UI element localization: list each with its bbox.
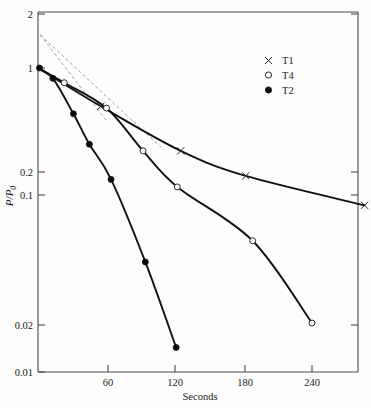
series-origin-markers xyxy=(37,65,43,71)
x-tick-label-1: 120 xyxy=(167,377,183,388)
series-line-t1 xyxy=(38,68,365,205)
figure-container: 2 1 0.2 0.1 0.02 0.01 P/P0 60 120 180 24… xyxy=(0,0,371,408)
log-decay-chart: 2 1 0.2 0.1 0.02 0.01 P/P0 60 120 180 24… xyxy=(0,0,371,408)
x-axis-title: Seconds xyxy=(183,391,218,402)
data-point-t2-4 xyxy=(108,176,114,182)
series-t4 xyxy=(38,68,315,326)
data-point-t4-2 xyxy=(104,105,110,111)
y-tick-label-1: 1 xyxy=(28,63,33,74)
y-axis-title-main: P/P xyxy=(3,189,15,207)
filled-circle-icon xyxy=(265,87,271,93)
y-tick-label-0: 2 xyxy=(28,9,33,20)
data-point-t2-5 xyxy=(142,259,148,265)
data-point-t4-1 xyxy=(61,80,67,86)
y-axis-tick-labels: 2 1 0.2 0.1 0.02 0.01 xyxy=(15,9,33,378)
open-circle-icon xyxy=(265,72,271,78)
y-tick-label-4: 0.02 xyxy=(15,320,33,331)
data-point-origin xyxy=(37,65,43,71)
x-tick-label-3: 240 xyxy=(304,377,320,388)
cross-icon xyxy=(265,57,272,64)
data-point-t4-5 xyxy=(250,238,256,244)
series-t1 xyxy=(38,68,368,209)
legend-label-t4: T4 xyxy=(282,70,294,81)
data-point-t2-3 xyxy=(86,141,92,147)
data-point-t4-3 xyxy=(140,148,146,154)
x-axis-ticks xyxy=(108,365,312,372)
legend-entry-t1: T1 xyxy=(265,55,294,66)
y-tick-label-3: 0.1 xyxy=(20,190,33,201)
legend-label-t2: T2 xyxy=(282,85,294,96)
series-layer xyxy=(37,65,369,350)
data-point-t4-4 xyxy=(174,184,180,190)
y-axis-title: P/P0 xyxy=(3,186,18,208)
legend-entry-t4: T4 xyxy=(265,70,294,81)
data-point-t4-6 xyxy=(309,320,315,326)
y-tick-label-2: 0.2 xyxy=(20,167,33,178)
data-point-t1-2 xyxy=(177,147,184,154)
chart-legend: T1 T4 T2 xyxy=(265,55,294,96)
data-point-t2-1 xyxy=(50,75,56,81)
y-tick-label-5: 0.01 xyxy=(15,367,33,378)
series-line-t4 xyxy=(38,68,312,323)
legend-label-t1: T1 xyxy=(282,55,294,66)
legend-entry-t2: T2 xyxy=(265,85,293,96)
x-tick-label-2: 180 xyxy=(237,377,253,388)
x-tick-label-0: 60 xyxy=(103,377,114,388)
x-axis-tick-labels: 60 120 180 240 xyxy=(103,377,320,388)
svg-text:P/P0: P/P0 xyxy=(3,186,18,208)
data-point-t2-2 xyxy=(70,111,76,117)
data-point-t2-6 xyxy=(173,344,179,350)
y-axis-title-subscript: 0 xyxy=(9,186,18,190)
